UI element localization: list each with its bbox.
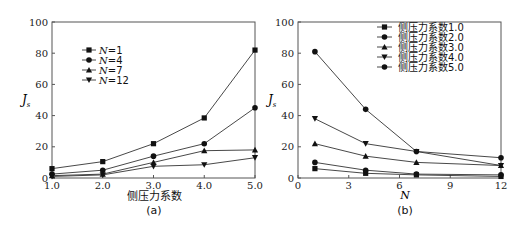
triangle-up-marker-icon [312, 141, 318, 147]
y-tick-label: 40 [35, 110, 48, 121]
panel-a-x-axis-label: 侧压力系数 [127, 190, 182, 203]
y-tick-label: 100 [29, 17, 48, 28]
square-legend-icon [382, 24, 387, 29]
square-marker-icon [49, 166, 54, 171]
circle-marker-icon [363, 107, 369, 113]
circle-marker-icon [498, 155, 504, 161]
panel-b-caption: (b) [397, 204, 413, 217]
series-line [315, 144, 501, 166]
circle-marker-icon [312, 49, 318, 55]
square-marker-icon [202, 115, 207, 120]
x-tick-label: 1.0 [44, 180, 60, 191]
circle-marker-icon [414, 171, 420, 177]
series-line [315, 119, 501, 166]
legend-item-label: N=12 [98, 75, 129, 86]
y-tick-label: 60 [281, 79, 294, 90]
y-tick-label: 0 [288, 173, 294, 184]
circle-marker-icon [363, 167, 369, 173]
square-marker-icon [151, 141, 156, 146]
legend-item-label: 侧压力系数5.0 [398, 61, 464, 73]
x-tick-label: 0 [295, 180, 301, 191]
series-line [315, 169, 501, 177]
circle-legend-icon [86, 57, 92, 63]
panel-b-y-axis: 020406080100 [275, 17, 301, 184]
circle-marker-icon [498, 172, 504, 178]
circle-marker-icon [312, 160, 318, 166]
x-tick-label: 9 [447, 180, 453, 191]
panel-a-x-axis: 1.02.03.04.05.0 [44, 175, 263, 191]
y-tick-label: 40 [281, 110, 294, 121]
panel-a-series [49, 47, 258, 179]
circle-marker-icon [252, 105, 258, 111]
x-tick-label: 12 [495, 180, 508, 191]
square-marker-icon [100, 159, 105, 164]
panel-b-chart: 020406080100 036912 侧压力系数1.0侧压力系数2.0侧压力系… [265, 17, 507, 218]
triangle-down-marker-icon [312, 116, 318, 122]
panel-b-legend: 侧压力系数1.0侧压力系数2.0侧压力系数3.0侧压力系数4.0侧压力系数5.0 [377, 21, 464, 73]
x-tick-label: 3 [346, 180, 352, 191]
y-tick-label: 80 [281, 48, 294, 59]
circle-marker-icon [151, 153, 157, 159]
y-tick-label: 80 [35, 48, 48, 59]
x-tick-label: 4.0 [196, 180, 212, 191]
circle-marker-icon [414, 149, 420, 155]
square-marker-icon [252, 47, 257, 52]
panel-b-x-axis-label: N [399, 189, 410, 202]
x-tick-label: 2.0 [95, 180, 111, 191]
y-tick-label: 100 [275, 17, 294, 28]
circle-marker-icon [201, 141, 207, 147]
panel-a-legend: N=1N=4N=7N=12 [82, 45, 129, 86]
circle-legend-icon [382, 34, 388, 40]
y-tick-label: 60 [35, 79, 48, 90]
y-tick-label: 20 [35, 141, 48, 152]
panel-a-y-axis-label: Js [19, 93, 31, 109]
square-legend-icon [86, 47, 91, 52]
series-line [52, 50, 255, 169]
panel-a-caption: (a) [146, 204, 161, 217]
square-marker-icon [312, 166, 317, 171]
figure: 020406080100 1.02.03.04.05.0 N=1N=4N=7N=… [0, 0, 522, 230]
panel-a-y-axis: 020406080100 [29, 17, 55, 184]
panel-b-y-axis-label: Js [265, 93, 277, 109]
x-tick-label: 5.0 [247, 180, 263, 191]
panel-a-chart: 020406080100 1.02.03.04.05.0 N=1N=4N=7N=… [19, 17, 263, 218]
y-tick-label: 20 [281, 141, 294, 152]
circle-legend-icon [382, 64, 388, 70]
